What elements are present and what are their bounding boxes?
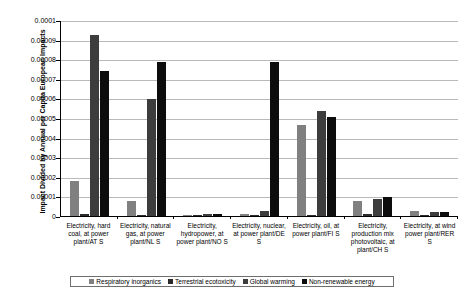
bar (213, 214, 222, 216)
x-axis-label: Electricity, at wind power plant/RER S (401, 222, 458, 254)
y-axis-tick-label: 0.00004 (8, 135, 56, 142)
y-axis-tick-mark (56, 178, 60, 179)
bar-groups (61, 21, 458, 216)
legend-swatch-icon (168, 279, 173, 284)
bar-chart: Impact Divided by Annual per Capita Euro… (0, 0, 462, 291)
y-axis-tick-label: 0.00001 (8, 193, 56, 200)
bar (80, 214, 89, 216)
x-axis-label: Electricity, hydropower, at power plant/… (174, 222, 231, 254)
bar (70, 181, 79, 216)
bar (127, 201, 136, 216)
bar (260, 211, 269, 216)
y-axis-tick-mark (56, 119, 60, 120)
bar (440, 212, 449, 216)
bar-group (118, 21, 175, 216)
legend-label: Respiratory inorganics (96, 278, 161, 285)
y-axis-tick-label: 0.00007 (8, 76, 56, 83)
legend-label: Global warming (250, 278, 295, 285)
x-axis-label: Electricity, hard coal, at power plant/A… (60, 222, 117, 254)
x-axis-labels: Electricity, hard coal, at power plant/A… (60, 222, 458, 254)
y-axis-tick-label: 0.00009 (8, 37, 56, 44)
x-axis-label: Electricity, oil, at power plant/FI S (287, 222, 344, 254)
chart-legend: Respiratory inorganicsTerrestrial ecotox… (70, 276, 394, 287)
bar (183, 215, 192, 216)
y-axis-tick-mark (56, 41, 60, 42)
bar (373, 199, 382, 216)
legend-item: Terrestrial ecotoxicity (168, 278, 236, 285)
x-axis-label: Electricity, production mix photovoltaic… (344, 222, 401, 254)
plot-area (60, 21, 458, 217)
bar-group (401, 21, 458, 216)
bar (420, 215, 429, 216)
bar (90, 35, 99, 216)
legend-item: Respiratory inorganics (89, 278, 161, 285)
bar (363, 214, 372, 216)
bar-group (61, 21, 118, 216)
bar (270, 62, 279, 216)
y-axis-tick-label: 0.00005 (8, 115, 56, 122)
bar (100, 71, 109, 216)
bar-group (345, 21, 402, 216)
legend-swatch-icon (243, 279, 248, 284)
bar (317, 111, 326, 216)
bar (327, 117, 336, 216)
y-axis-tick-mark (56, 80, 60, 81)
legend-swatch-icon (89, 279, 94, 284)
y-axis-tick-label: 0.00006 (8, 95, 56, 102)
bar (193, 215, 202, 216)
bar (307, 215, 316, 216)
bar (203, 214, 212, 216)
y-axis-tick-mark (56, 60, 60, 61)
bar (430, 212, 439, 216)
y-axis-tick-mark (56, 99, 60, 100)
bar (157, 62, 166, 216)
y-axis-tick-mark (56, 197, 60, 198)
bar (353, 201, 362, 216)
y-axis-tick-label: 0 (8, 213, 56, 220)
y-axis-tick-label: 0.00008 (8, 56, 56, 63)
y-axis-tick-mark (56, 158, 60, 159)
x-axis-label: Electricity, nuclear, at power plant/DE … (231, 222, 288, 254)
bar (147, 99, 156, 216)
y-axis-tick-mark (56, 217, 60, 218)
y-axis-tick-label: 0.0001 (8, 17, 56, 24)
y-axis-tick-mark (56, 139, 60, 140)
y-axis-tick-label: 0.00003 (8, 154, 56, 161)
bar (250, 215, 259, 216)
x-axis-label: Electricity, natural gas, at power plant… (117, 222, 174, 254)
legend-swatch-icon (302, 279, 307, 284)
bar (137, 215, 146, 216)
bar-group (288, 21, 345, 216)
bar (240, 214, 249, 216)
legend-item: Global warming (243, 278, 295, 285)
legend-item: Non-renewable energy (302, 278, 375, 285)
bar (297, 125, 306, 216)
bar (410, 211, 419, 216)
legend-label: Non-renewable energy (309, 278, 375, 285)
bar (383, 197, 392, 216)
y-axis-tick-mark (56, 21, 60, 22)
legend-label: Terrestrial ecotoxicity (175, 278, 236, 285)
y-axis-tick-label: 0.00002 (8, 174, 56, 181)
bar-group (231, 21, 288, 216)
bar-group (174, 21, 231, 216)
